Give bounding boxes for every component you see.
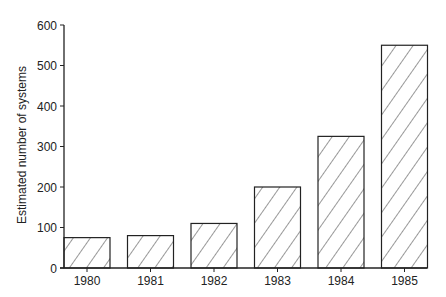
x-tick-label: 1981	[137, 274, 164, 288]
x-tick-label: 1984	[328, 274, 355, 288]
bar-1984	[318, 136, 364, 268]
x-tick-label: 1983	[264, 274, 291, 288]
bar-1985	[382, 45, 428, 268]
bar-chart: 1980198119821983198419850100200300400500…	[0, 0, 446, 297]
bar-1982	[191, 223, 237, 268]
y-tick-label: 300	[37, 140, 57, 154]
y-tick-label: 400	[37, 100, 57, 114]
bar-1983	[255, 187, 301, 268]
x-tick-label: 1982	[201, 274, 228, 288]
bars-group	[64, 45, 428, 268]
y-tick-label: 100	[37, 221, 57, 235]
y-tick-label: 600	[37, 19, 57, 33]
x-tick-label: 1980	[74, 274, 101, 288]
bar-1980	[64, 238, 110, 268]
y-tick-label: 200	[37, 181, 57, 195]
y-tick-label: 0	[50, 262, 57, 276]
bar-1981	[128, 236, 174, 268]
x-tick-label: 1985	[391, 274, 418, 288]
y-tick-label: 500	[37, 59, 57, 73]
